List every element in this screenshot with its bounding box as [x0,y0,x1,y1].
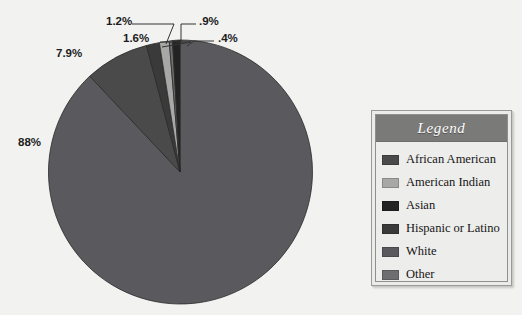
legend-swatch-asian [382,201,399,211]
legend-body: African American American Indian Asian H… [376,142,507,286]
legend-header: Legend [376,115,507,142]
legend-swatch-american-indian [382,178,399,188]
leader-line-asian [181,24,196,42]
legend-swatch-african-american [382,155,399,165]
legend-label-african-american: African American [406,152,496,167]
label-other-pct: .4% [218,32,238,44]
legend-inner: Legend African American American Indian … [375,114,508,282]
legend-item-other[interactable]: Other [382,263,507,286]
pie-slice-white[interactable] [48,40,312,304]
chart-canvas: 88% 7.9% 1.6% 1.2% .9% .4% Legend Africa… [0,0,522,315]
pie-chart-svg [0,0,330,315]
legend-item-african-american[interactable]: African American [382,148,507,171]
pie-chart: 88% 7.9% 1.6% 1.2% .9% .4% [0,0,330,315]
legend-label-other: Other [406,267,434,282]
legend-label-asian: Asian [406,198,435,213]
legend-label-white: White [406,244,437,259]
legend-title: Legend [418,120,466,137]
legend-item-asian[interactable]: Asian [382,194,507,217]
legend: Legend African American American Indian … [371,110,512,286]
label-american-indian-pct: 1.2% [106,15,132,27]
legend-swatch-hispanic-or-latino [382,224,399,234]
label-white-pct: 88% [18,136,41,148]
legend-item-american-indian[interactable]: American Indian [382,171,507,194]
legend-label-american-indian: American Indian [406,175,490,190]
label-asian-pct: .9% [199,15,219,27]
legend-item-white[interactable]: White [382,240,507,263]
legend-item-hispanic-or-latino[interactable]: Hispanic or Latino [382,217,507,240]
legend-swatch-white [382,247,399,257]
label-african-american-pct: 7.9% [56,47,82,59]
legend-label-hispanic-or-latino: Hispanic or Latino [406,221,500,236]
legend-swatch-other [382,270,399,280]
label-hispanic-pct: 1.6% [123,32,149,44]
